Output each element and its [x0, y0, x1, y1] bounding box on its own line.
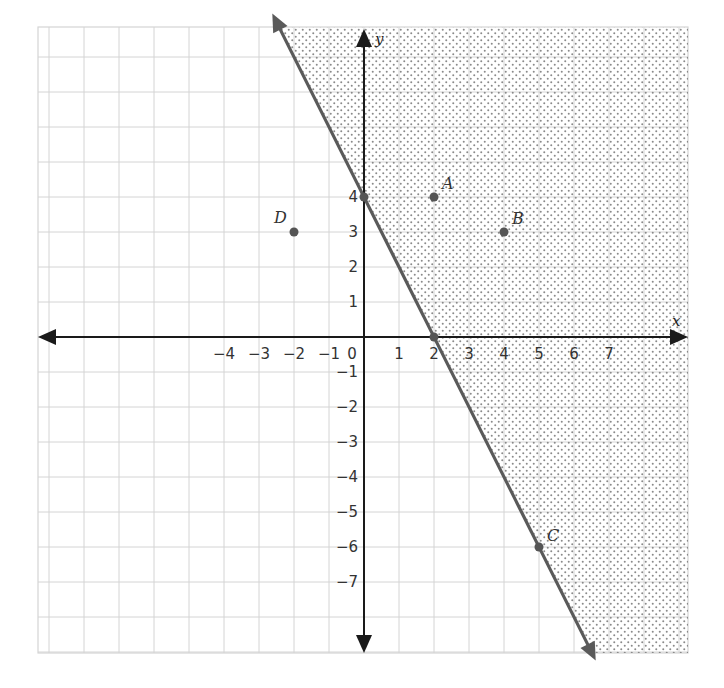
- point-label-A: A: [440, 174, 454, 193]
- x-axis-left-arrow-icon: [38, 329, 56, 345]
- x-tick-label: −4: [213, 345, 235, 363]
- point-D: [290, 228, 299, 237]
- x-tick-label: −3: [248, 345, 270, 363]
- x-tick-label: −1: [318, 345, 340, 363]
- dot-shading: [279, 27, 688, 653]
- y-tick-label: 3: [348, 223, 358, 241]
- point-C: [535, 543, 544, 552]
- y-tick-label: 4: [348, 188, 358, 206]
- x-tick-label: 0: [347, 345, 357, 363]
- y-tick-label: −6: [336, 538, 358, 556]
- y-tick-label: 2: [348, 258, 358, 276]
- point-label-B: B: [511, 209, 524, 228]
- point-label-D: D: [273, 208, 287, 227]
- x-tick-label: 2: [429, 345, 439, 363]
- point-label-C: C: [547, 526, 559, 545]
- x-tick-label: 1: [394, 345, 404, 363]
- coordinate-plane: −4−3−2−101234567−7−6−5−4−3−2−11234 ABCD …: [0, 0, 724, 688]
- shaded-region: [279, 27, 688, 653]
- point-intercept: [360, 193, 369, 202]
- y-tick-label: 1: [348, 293, 358, 311]
- x-tick-label: 4: [499, 345, 509, 363]
- y-tick-label: −2: [336, 398, 358, 416]
- y-axis-down-arrow-icon: [356, 635, 372, 653]
- y-tick-label: −1: [336, 363, 358, 381]
- point-intercept: [430, 333, 439, 342]
- y-tick-label: −3: [336, 433, 358, 451]
- x-tick-label: 7: [604, 345, 614, 363]
- y-tick-label: −7: [336, 573, 358, 591]
- x-tick-label: 5: [534, 345, 544, 363]
- y-tick-label: −5: [336, 503, 358, 521]
- x-tick-label: −2: [283, 345, 305, 363]
- point-B: [500, 228, 509, 237]
- x-tick-label: 3: [464, 345, 474, 363]
- y-tick-label: −4: [336, 468, 358, 486]
- point-A: [430, 193, 439, 202]
- x-axis-label: x: [672, 312, 681, 330]
- y-axis-label: y: [374, 30, 384, 48]
- x-tick-label: 6: [569, 345, 579, 363]
